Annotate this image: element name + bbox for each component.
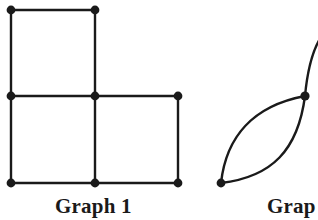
graph-1 — [7, 6, 183, 188]
vertex-mid-right — [174, 92, 183, 101]
vertex-top-left — [7, 6, 16, 15]
graph-drawing-canvas — [0, 0, 318, 220]
vertex-bottom-left — [7, 179, 16, 188]
vertex-mid-center — [91, 92, 100, 101]
vertex-bottom-right — [174, 179, 183, 188]
graph-figure: Graph 1 Grap — [0, 0, 318, 220]
vertex-upper-right — [300, 91, 309, 100]
vertex-bottom-mid — [91, 179, 100, 188]
graph-2-vertices — [217, 91, 310, 187]
graph-2 — [217, 37, 318, 187]
curve-through-vertex — [305, 37, 318, 96]
graph-1-caption: Graph 1 — [55, 196, 132, 217]
arc-lower — [221, 96, 305, 183]
vertex-mid-left — [7, 92, 16, 101]
vertex-lower-left — [217, 179, 226, 188]
graph-2-caption: Grap — [267, 196, 316, 217]
vertex-top-mid — [91, 6, 100, 15]
